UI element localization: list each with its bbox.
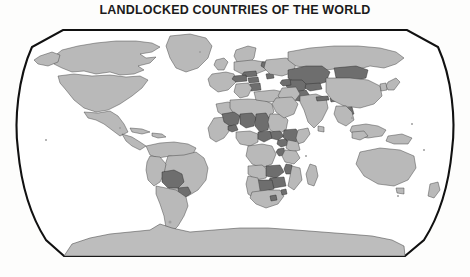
island-speck <box>351 117 353 119</box>
island-speck <box>411 123 413 125</box>
world-map-svg <box>0 0 470 277</box>
country-niger <box>240 113 256 128</box>
country-eswatini <box>281 189 287 195</box>
country-lesotho <box>270 195 277 201</box>
country-nepal <box>316 96 329 101</box>
country-tasmania <box>396 188 404 194</box>
country-austria-switzerland <box>232 75 247 82</box>
country-hungary <box>248 77 259 83</box>
world-map-figure: LANDLOCKED COUNTRIES OF THE WORLD <box>0 0 470 277</box>
island-speck <box>305 155 307 157</box>
country-sri-lanka <box>318 126 324 132</box>
island-speck <box>45 139 47 141</box>
island-speck <box>423 149 425 151</box>
island-speck <box>169 221 172 224</box>
island-speck <box>397 195 399 197</box>
country-korea <box>380 83 387 91</box>
island-speck <box>199 51 201 53</box>
island-speck <box>119 127 121 129</box>
